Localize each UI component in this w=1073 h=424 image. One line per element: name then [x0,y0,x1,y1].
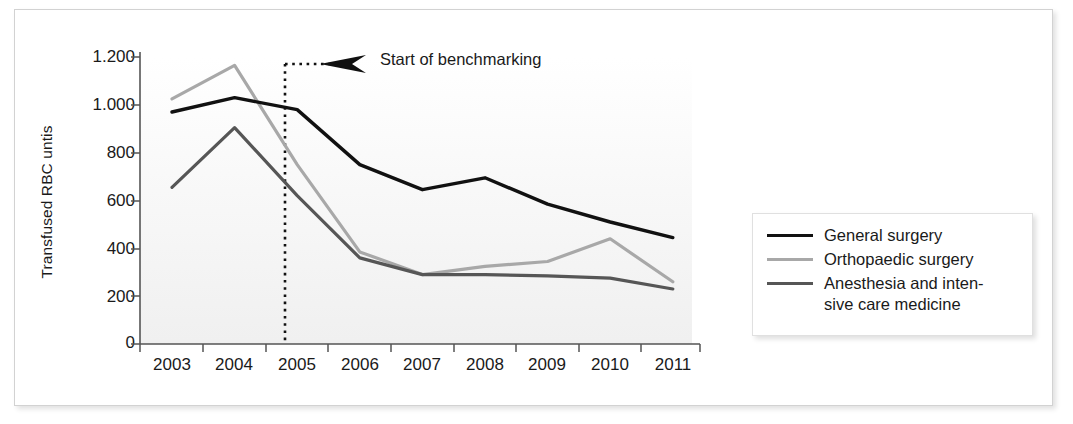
chart-legend: General surgery Orthopaedic surgery Anes… [752,213,1033,336]
legend-item-orthopaedic-surgery[interactable]: Orthopaedic surgery [767,249,1020,270]
legend-label-anesthesia: Anesthesia and inten- sive care medicine [824,273,984,315]
legend-swatch-orthopaedic-surgery [767,251,813,267]
legend-label-anesthesia-line2: sive care medicine [824,295,961,313]
benchmarking-annotation-line [285,55,366,344]
figure-container: Transfused RBC untis 1.200 1.000 800 600… [0,0,1073,424]
series-line-anesthesia [172,128,673,289]
legend-label-orthopaedic-surgery: Orthopaedic surgery [824,249,974,270]
legend-swatch-general-surgery [767,227,813,243]
legend-item-general-surgery[interactable]: General surgery [767,225,1020,246]
legend-swatch-anesthesia [767,275,813,291]
x-tick-marks [140,344,700,352]
series-line-orthopaedic-surgery [172,65,673,281]
legend-label-anesthesia-line1: Anesthesia and inten- [824,274,984,292]
series-line-general-surgery [172,98,673,238]
y-tick-marks [131,57,140,344]
benchmarking-annotation-label: Start of benchmarking [380,50,541,69]
legend-label-general-surgery: General surgery [824,225,942,246]
legend-item-anesthesia[interactable]: Anesthesia and inten- sive care medicine [767,273,1020,315]
